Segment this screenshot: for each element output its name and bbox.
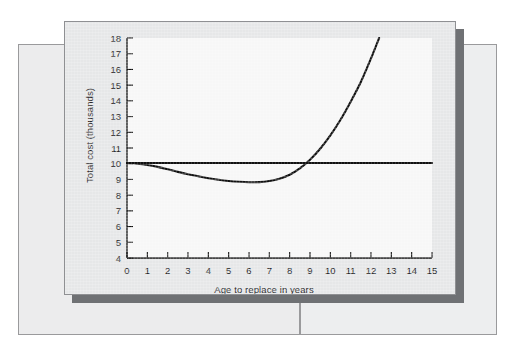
x-tick-label: 6 (246, 265, 251, 276)
figure-root: 4567891011121314151617180123456789101112… (0, 0, 515, 361)
x-tick-label: 15 (427, 265, 438, 276)
y-tick-label: 13 (110, 111, 121, 122)
y-tick-label: 5 (116, 237, 121, 248)
x-tick-label: 12 (366, 265, 377, 276)
x-tick-label: 9 (307, 265, 312, 276)
plot-background (127, 38, 432, 258)
y-tick-label: 9 (116, 174, 121, 185)
x-tick-label: 2 (165, 265, 170, 276)
y-tick-label: 17 (110, 48, 121, 59)
y-tick-label: 7 (116, 205, 121, 216)
x-axis-title: Age to replace in years (99, 284, 429, 295)
y-tick-label: 12 (110, 127, 121, 138)
x-tick-label: 11 (346, 265, 356, 276)
x-tick-label: 1 (145, 265, 150, 276)
y-tick-label: 4 (116, 253, 121, 264)
plot-area: 4567891011121314151617180123456789101112… (65, 22, 456, 295)
y-axis-title: Total cost (thousands) (84, 76, 95, 196)
y-tick-label: 16 (110, 64, 121, 75)
y-tick-label: 8 (116, 190, 121, 201)
y-tick-label: 14 (110, 95, 121, 106)
x-tick-label: 3 (185, 265, 190, 276)
y-tick-label: 6 (116, 221, 121, 232)
x-tick-label: 5 (226, 265, 231, 276)
x-tick-label: 10 (325, 265, 336, 276)
y-tick-label: 10 (110, 158, 121, 169)
x-tick-label: 13 (386, 265, 397, 276)
y-tick-label: 18 (110, 33, 121, 44)
x-tick-label: 14 (406, 265, 417, 276)
chart-svg: 4567891011121314151617180123456789101112… (65, 22, 456, 295)
x-tick-label: 4 (206, 265, 211, 276)
chart-card: 4567891011121314151617180123456789101112… (64, 21, 456, 295)
x-tick-label: 8 (287, 265, 292, 276)
x-tick-label: 7 (267, 265, 272, 276)
y-tick-label: 15 (110, 80, 121, 91)
y-tick-label: 11 (111, 143, 121, 154)
x-tick-label: 0 (124, 265, 129, 276)
